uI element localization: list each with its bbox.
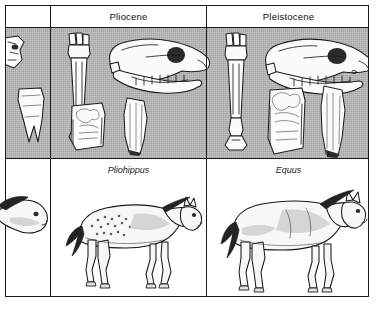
genus-label-pliohippus: Pliohippus [51,160,206,180]
evolution-figure-frame: Pliocene Pleistocene [5,5,369,297]
pliocene-molar-occlusal [68,100,108,154]
equus-horse-figure [220,186,370,296]
partial-horse-head [0,192,50,244]
fossil-specimen-band [6,28,368,159]
epoch-header-partial [6,6,50,27]
pliocene-metacarpal-bone [62,32,96,144]
partial-limb-bone [6,34,38,76]
epoch-header-pliocene: Pliocene [51,6,206,27]
pliohippus-horse-figure [64,188,204,294]
pliocene-skull [102,32,212,112]
genus-label-partial [6,160,50,180]
pleistocene-metacarpal-bone [218,32,254,152]
genus-label-equus: Equus [207,160,370,180]
epoch-header-row: Pliocene Pleistocene [6,6,368,27]
partial-molar-tooth [14,86,48,144]
epoch-header-pleistocene: Pleistocene [207,6,370,27]
column-divider-1 [50,6,51,296]
pleistocene-skull [258,32,368,114]
pleistocene-molar-lateral [314,84,352,159]
pleistocene-molar-occlusal [264,86,308,158]
pliocene-molar-lateral [118,96,154,158]
column-divider-2 [206,6,207,296]
